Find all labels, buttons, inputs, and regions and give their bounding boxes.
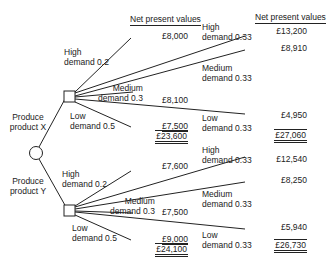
x-stage1-medium-value: £8,100	[138, 95, 188, 105]
decision-x-line2: product X	[6, 122, 50, 132]
node-product-y	[64, 205, 75, 216]
x-stage2-medium-value: £8,910	[262, 43, 307, 53]
y-stage1-medium-value: £7,500	[138, 207, 188, 217]
header-npv-stage2: Net present values	[255, 12, 326, 24]
y-stage2-medium-value: £8,250	[262, 175, 307, 185]
y2-branch-medium-label: Mediumdemand 0.33	[202, 189, 252, 209]
y-branch-high-label: Highdemand 0.2	[62, 169, 107, 189]
y2-branch-high-label: Highdemand 0.33	[202, 145, 252, 165]
x-stage2-total: £27,060	[262, 130, 307, 140]
decision-x-line1: Produce	[6, 112, 50, 122]
x-branch-high-label: Highdemand 0.2	[64, 47, 109, 67]
y-stage1-total: £24,100	[138, 244, 188, 254]
x-stage1-high-value: £8,000	[138, 31, 188, 41]
x-branch-low-label: Lowdemand 0.5	[70, 111, 115, 131]
decision-label-product-x: Produce product X	[6, 112, 50, 132]
decision-y-line1: Produce	[6, 176, 50, 186]
x-stage2-high-value: £13,200	[262, 26, 307, 36]
decision-label-product-y: Produce product Y	[6, 176, 50, 196]
header-npv-stage1: Net present values	[130, 14, 201, 26]
root-node	[30, 147, 43, 160]
x-branch-medium-label: Mediumdemand 0.3	[98, 83, 143, 103]
y-stage2-total: £26,730	[262, 240, 307, 250]
y-stage2-high-value: £12,540	[262, 154, 307, 164]
node-product-x	[64, 91, 75, 102]
x2-branch-medium-label: Mediumdemand 0.33	[202, 63, 252, 83]
y-stage1-high-value: £7,600	[138, 161, 188, 171]
y-branch-low-label: Lowdemand 0.5	[72, 223, 117, 243]
x-stage1-total: £23,600	[138, 131, 188, 141]
y-stage2-low-value: £5,940	[262, 222, 307, 232]
y2-branch-low-label: Lowdemand 0.33	[202, 230, 252, 250]
decision-y-line2: product Y	[6, 186, 50, 196]
x2-branch-low-label: Lowdemand 0.33	[202, 113, 252, 133]
x2-branch-high-label: Highdemand 0.33	[202, 22, 252, 42]
x-stage2-low-value: £4,950	[262, 110, 307, 120]
